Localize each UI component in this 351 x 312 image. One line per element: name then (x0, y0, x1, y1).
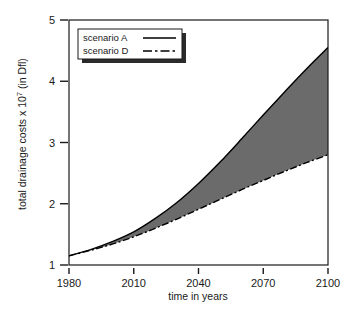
x-tick-label: 2100 (316, 277, 340, 289)
x-tick-label: 2010 (122, 277, 146, 289)
y-axis-title: total drainage costs x 107 (in Dfl) (15, 58, 28, 210)
y-tick-label: 3 (49, 137, 55, 149)
x-axis-title: time in years (168, 290, 228, 302)
legend: scenario A scenario D (78, 29, 186, 63)
x-tick-label: 2040 (186, 277, 210, 289)
y-tick-label: 5 (49, 14, 55, 26)
y-tick-label: 1 (49, 259, 55, 271)
y-tick-label: 2 (49, 198, 55, 210)
legend-label-scenario-d: scenario D (83, 45, 129, 56)
legend-label-scenario-a: scenario A (83, 32, 128, 43)
chart-svg: 12345 19802010204020702100 total drainag… (0, 0, 351, 312)
x-tick-label: 2070 (251, 277, 275, 289)
x-tick-label: 1980 (57, 277, 81, 289)
y-tick-label: 4 (49, 75, 55, 87)
chart-figure: 12345 19802010204020702100 total drainag… (0, 0, 351, 312)
